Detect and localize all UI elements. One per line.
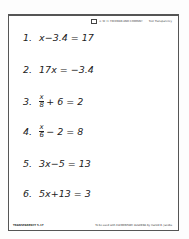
fraction: x 8 [39, 94, 44, 108]
equation-3: 3. x 8 + 6 = 2 [23, 94, 83, 108]
publisher-line: © W. H. FREEMAN AND COMPANY [99, 20, 143, 23]
equation-rest: + 6 = 2 [46, 96, 83, 107]
usage-note: To be used with ELEMENTARY ALGEBRA by Ha… [95, 224, 172, 227]
equation-number: 4. [23, 126, 32, 137]
equation-1: 1. x−3.4 = 17 [23, 32, 94, 43]
equation-text: 3x−5 = 13 [39, 158, 91, 169]
equation-number: 3. [23, 96, 32, 107]
equation-2: 2. 17x = −3.4 [23, 64, 94, 75]
equation-number: 1. [23, 32, 32, 43]
equation-text: 17x = −3.4 [39, 64, 94, 75]
equation-6: 6. 5x+13 = 3 [23, 188, 91, 199]
equation-number: 2. [23, 64, 32, 75]
publisher-logo-icon [91, 19, 97, 24]
equation-4: 4. x 6 − 2 = 8 [23, 124, 83, 138]
equation-number: 6. [23, 188, 32, 199]
header-tag: Text Transparency [149, 20, 172, 23]
equation-text: x−3.4 = 17 [39, 32, 94, 43]
equation-number: 5. [23, 158, 32, 169]
transparency-sheet: © W. H. FREEMAN AND COMPANY Text Transpa… [8, 14, 179, 231]
denominator: 8 [39, 102, 43, 109]
fraction: x 6 [39, 124, 44, 138]
equation-5: 5. 3x−5 = 13 [23, 158, 91, 169]
equation-rest: − 2 = 8 [46, 126, 83, 137]
transparency-label: TRANSPARENCY 5-17 [13, 224, 44, 227]
equation-text: 5x+13 = 3 [39, 188, 91, 199]
publisher-header: © W. H. FREEMAN AND COMPANY Text Transpa… [91, 19, 172, 24]
denominator: 6 [39, 132, 43, 139]
